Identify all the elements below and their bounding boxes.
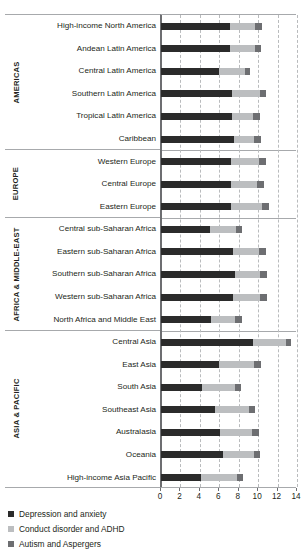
- bar-segment-cond: [210, 226, 236, 233]
- bar-segment-aut: [254, 136, 261, 143]
- stacked-bar: [161, 361, 261, 368]
- bar-segment-cond: [219, 68, 244, 75]
- group-label-africa-middle-east: AFRICA & MIDDLE-EAST: [5, 217, 27, 330]
- group-axis-column: AMERICASEUROPEAFRICA & MIDDLE-EASTASIA &…: [5, 14, 27, 488]
- plot-frame: [160, 14, 296, 488]
- stacked-bar: [161, 339, 291, 346]
- category-label-column: High-income North AmericaAndean Latin Am…: [27, 14, 160, 488]
- group-label-europe: EUROPE: [5, 149, 27, 217]
- category-label: Central sub-Saharan Africa: [27, 218, 160, 241]
- bar-segment-dep: [161, 474, 201, 481]
- bar-row: [161, 128, 296, 151]
- category-label: High-income North America: [27, 15, 160, 38]
- stacked-bar: [161, 203, 269, 210]
- legend-swatch-icon: [8, 526, 14, 532]
- group-caption-text: AMERICAS: [12, 61, 21, 103]
- bar-segment-dep: [161, 271, 235, 278]
- stacked-bar: [161, 68, 250, 75]
- bar-segment-aut: [286, 339, 291, 346]
- bar-row: [161, 308, 296, 331]
- bar-segment-aut: [254, 451, 260, 458]
- bar-row: [161, 399, 296, 422]
- bar-row: [161, 105, 296, 128]
- legend-label: Depression and anxiety: [19, 509, 107, 519]
- bar-segment-aut: [235, 316, 242, 323]
- bar-segment-cond: [231, 181, 257, 188]
- bar-segment-dep: [161, 113, 232, 120]
- bar-segment-dep: [161, 451, 223, 458]
- x-tick-label: 12: [272, 492, 281, 501]
- category-label: Southern sub-Saharan Africa: [27, 263, 160, 286]
- category-label-group: Central AsiaEast AsiaSouth AsiaSoutheast…: [27, 330, 160, 488]
- stacked-bar: [161, 384, 241, 391]
- x-tick: [238, 488, 239, 491]
- x-tick: [257, 488, 258, 491]
- legend-item[interactable]: Depression and anxiety: [8, 506, 238, 521]
- bar-segment-cond: [232, 90, 260, 97]
- stacked-bar: [161, 158, 266, 165]
- bar-row: [161, 196, 296, 219]
- bar-row: [161, 263, 296, 286]
- category-label: Caribbean: [27, 128, 160, 151]
- group-caption-text: EUROPE: [12, 167, 21, 200]
- bar-segment-cond: [220, 429, 252, 436]
- category-label: Western Europe: [27, 150, 160, 173]
- bar-segment-aut: [259, 158, 266, 165]
- bar-row: [161, 15, 296, 38]
- category-label-group: Central sub-Saharan AfricaEastern sub-Sa…: [27, 217, 160, 330]
- stacked-bar: [161, 406, 255, 413]
- legend-swatch-icon: [8, 511, 14, 517]
- x-tick-label: 8: [235, 492, 240, 501]
- bar-segment-cond: [219, 361, 254, 368]
- category-label: Southeast Asia: [27, 399, 160, 422]
- bar-row: [161, 444, 296, 467]
- stacked-bar: [161, 474, 243, 481]
- bar-row: [161, 353, 296, 376]
- category-label: South Asia: [27, 376, 160, 399]
- bar-segment-dep: [161, 361, 219, 368]
- group-label-americas: AMERICAS: [5, 14, 27, 149]
- bar-segment-aut: [253, 113, 260, 120]
- bar-segment-dep: [161, 203, 231, 210]
- bar-segment-cond: [234, 136, 254, 143]
- stacked-bar: [161, 45, 261, 52]
- bar-segment-dep: [161, 384, 202, 391]
- category-label: Western sub-Saharan Africa: [27, 286, 160, 309]
- bar-segment-aut: [235, 384, 241, 391]
- category-label: High-income Asia Pacific: [27, 466, 160, 489]
- bar-segment-aut: [255, 45, 261, 52]
- bar-segment-cond: [232, 113, 253, 120]
- bar-segment-aut: [236, 226, 242, 233]
- category-label: Australasia: [27, 421, 160, 444]
- legend-item[interactable]: Conduct disorder and ADHD: [8, 521, 238, 536]
- bar-segment-aut: [260, 271, 267, 278]
- bar-segment-cond: [253, 339, 286, 346]
- x-tick: [199, 488, 200, 491]
- stacked-bar: [161, 248, 266, 255]
- x-tick-label: 14: [291, 492, 300, 501]
- bar-segment-cond: [230, 45, 255, 52]
- x-tick: [296, 488, 297, 491]
- bar-row: [161, 376, 296, 399]
- group-caption-text: AFRICA & MIDDLE-EAST: [12, 227, 21, 321]
- bar-segment-dep: [161, 45, 230, 52]
- bar-segment-aut: [254, 361, 261, 368]
- legend-item[interactable]: Autism and Aspergers: [8, 536, 238, 551]
- bar-segment-aut: [255, 23, 262, 30]
- bar-segment-cond: [231, 203, 262, 210]
- bar-row: [161, 331, 296, 354]
- bar-segment-dep: [161, 23, 230, 30]
- x-tick: [218, 488, 219, 491]
- category-label: Central Asia: [27, 331, 160, 354]
- category-label-group: High-income North AmericaAndean Latin Am…: [27, 14, 160, 149]
- stacked-bar: [161, 90, 266, 97]
- bar-row: [161, 286, 296, 309]
- x-tick-label: 10: [253, 492, 262, 501]
- category-label: Oceania: [27, 444, 160, 467]
- bar-segment-dep: [161, 406, 215, 413]
- bar-segment-cond: [211, 316, 235, 323]
- legend-swatch-icon: [8, 541, 14, 547]
- bar-segment-aut: [262, 203, 269, 210]
- bar-segment-dep: [161, 226, 210, 233]
- category-label: East Asia: [27, 354, 160, 377]
